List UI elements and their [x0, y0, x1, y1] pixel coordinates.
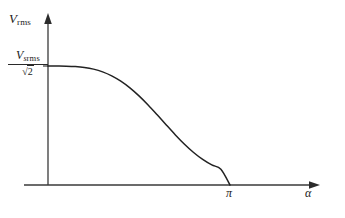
- y-axis-title-main: V: [9, 11, 17, 26]
- fraction-numerator: Vsrms: [8, 49, 48, 64]
- vrms-curve: [48, 66, 230, 185]
- x-axis-title-alpha: α: [305, 187, 311, 199]
- y-axis-title-subscript: rms: [17, 17, 31, 27]
- y-axis-title: Vrms: [9, 12, 31, 27]
- figure-canvas: Vrms Vsrms √2 π α: [0, 0, 345, 218]
- plot-area: [0, 0, 345, 218]
- fraction-denominator: √2: [8, 67, 48, 77]
- y-axis-arrowhead: [44, 13, 52, 24]
- x-axis-tick-label-pi: π: [226, 187, 232, 199]
- numerator-subscript-rms: rms: [27, 53, 40, 63]
- radicand-value: 2: [27, 65, 34, 77]
- y-axis-value-label: Vsrms √2: [8, 49, 48, 77]
